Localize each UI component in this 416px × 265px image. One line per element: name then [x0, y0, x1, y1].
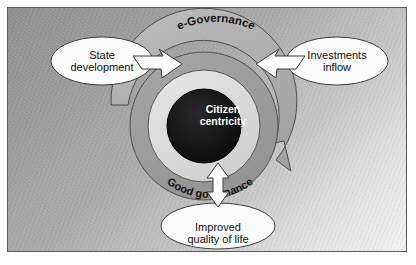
diagram-frame: e-Governance Good governance — [7, 7, 407, 252]
core-circle — [167, 89, 241, 163]
diagram-canvas: e-Governance Good governance — [0, 0, 416, 265]
diagram-vector-layer: e-Governance Good governance — [8, 8, 407, 252]
node-improved-quality-of-life — [161, 203, 275, 249]
